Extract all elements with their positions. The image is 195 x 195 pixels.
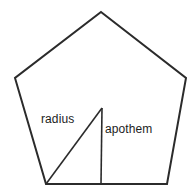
pentagon-outline [15,12,186,184]
pentagon-diagram-svg [0,0,195,195]
apothem-label: apothem [105,123,152,135]
geometry-figure: radius apothem [0,0,195,195]
apothem-line [101,108,102,184]
radius-label: radius [41,113,74,125]
